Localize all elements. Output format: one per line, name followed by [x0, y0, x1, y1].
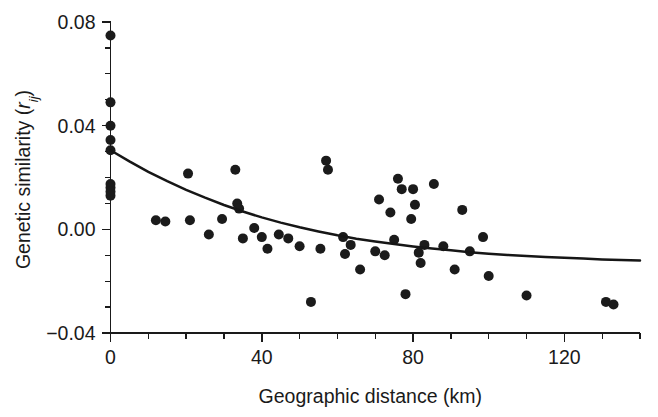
data-point-series — [106, 30, 619, 309]
fitted-curve — [111, 150, 641, 260]
data-point — [185, 215, 195, 225]
data-point — [393, 174, 403, 184]
y-tick-label: 0.00 — [58, 218, 96, 240]
data-point — [160, 217, 170, 227]
x-axis-minor-ticks — [148, 333, 640, 339]
x-axis-title: Geographic distance (km) — [259, 385, 482, 407]
data-point — [151, 215, 161, 225]
data-point — [238, 233, 248, 243]
x-tick-label: 0 — [105, 346, 116, 368]
data-point — [106, 30, 116, 40]
scatter-plot: −0.040.000.040.08 04080120 Geographic di… — [0, 0, 658, 417]
data-point — [106, 135, 116, 145]
y-axis-minor-ticks — [105, 48, 111, 307]
data-point — [257, 232, 267, 242]
data-point — [355, 265, 365, 275]
y-tick-label: −0.04 — [46, 322, 95, 344]
x-tick-label: 40 — [251, 346, 273, 368]
figure-container: −0.040.000.040.08 04080120 Geographic di… — [0, 0, 658, 417]
data-point — [346, 240, 356, 250]
x-tick-label: 120 — [548, 346, 581, 368]
data-point — [416, 258, 426, 268]
data-point — [204, 230, 214, 240]
y-tick-label: 0.04 — [58, 115, 96, 137]
data-point — [262, 244, 272, 254]
y-axis-title: Genetic similarity (rij) — [12, 90, 41, 269]
data-point — [315, 244, 325, 254]
data-point — [522, 290, 532, 300]
data-point — [106, 191, 116, 201]
data-point — [274, 230, 284, 240]
data-point — [321, 156, 331, 166]
data-point — [385, 207, 395, 217]
data-point — [217, 214, 227, 224]
data-point — [408, 184, 418, 194]
data-point — [323, 165, 333, 175]
data-point — [106, 121, 116, 131]
data-point — [306, 297, 316, 307]
data-point — [249, 223, 259, 233]
data-point — [609, 299, 619, 309]
data-point — [397, 184, 407, 194]
data-point — [410, 200, 420, 210]
data-point — [484, 271, 494, 281]
data-point — [283, 233, 293, 243]
data-point — [183, 169, 193, 179]
data-point — [380, 250, 390, 260]
data-point — [340, 249, 350, 259]
data-point — [230, 165, 240, 175]
data-point — [457, 205, 467, 215]
y-tick-label: 0.08 — [58, 11, 96, 33]
data-point — [374, 195, 384, 205]
y-axis-tick-labels: −0.040.000.040.08 — [46, 11, 95, 344]
data-point — [478, 232, 488, 242]
data-point — [370, 246, 380, 256]
data-point — [406, 214, 416, 224]
data-point — [295, 241, 305, 251]
data-point — [429, 179, 439, 189]
x-tick-label: 80 — [402, 346, 424, 368]
x-axis-tick-labels: 04080120 — [105, 346, 581, 368]
data-point — [450, 265, 460, 275]
data-point — [106, 97, 116, 107]
data-point — [401, 289, 411, 299]
